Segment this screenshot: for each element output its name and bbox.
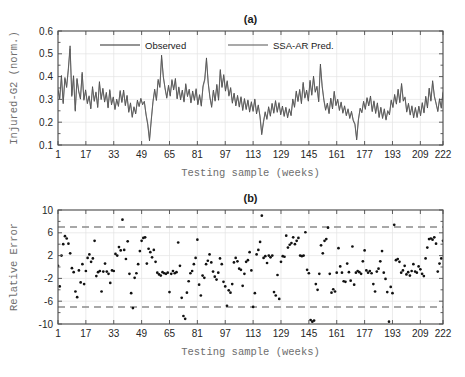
scatter-point (285, 234, 288, 237)
xtick-label: 129 (273, 328, 290, 339)
scatter-point (259, 241, 262, 244)
scatter-point (224, 285, 227, 288)
xtick-label: 81 (192, 149, 204, 160)
scatter-point (193, 263, 196, 266)
xtick-label: 1 (55, 149, 61, 160)
scatter-point (295, 239, 298, 242)
scatter-point (191, 270, 194, 273)
scatter-point (140, 239, 143, 242)
scatter-point (226, 304, 229, 307)
scatter-point (220, 263, 223, 266)
scatter-point (321, 252, 324, 255)
scatter-point (180, 296, 183, 299)
scatter-point (339, 265, 342, 268)
scatter-point (78, 269, 81, 272)
scatter-point (337, 247, 340, 250)
xtick-label: 222 (435, 149, 452, 160)
scatter-point (118, 246, 121, 249)
xtick-label: 97 (220, 149, 232, 160)
xtick-label: 17 (80, 149, 92, 160)
scatter-point (389, 286, 392, 289)
scatter-point (421, 272, 424, 275)
scatter-point (236, 260, 239, 263)
scatter-point (208, 253, 211, 256)
scatter-point (250, 269, 253, 272)
scatter-point (201, 274, 204, 277)
scatter-point (146, 262, 149, 265)
scatter-point (266, 262, 269, 265)
scatter-point (151, 256, 154, 259)
panel-a: (a)0.10.20.30.40.50.61173349658197113129… (0, 0, 465, 188)
scatter-point (210, 261, 213, 264)
scatter-point (170, 272, 173, 275)
panel-b: (b)-10-6-2261011733496581971131291451611… (0, 188, 465, 376)
scatter-point (184, 318, 187, 321)
ytick-label: 2 (47, 250, 53, 261)
scatter-point (227, 289, 230, 292)
scatter-point (128, 272, 131, 275)
scatter-point (243, 272, 246, 275)
scatter-point (147, 247, 150, 250)
scatter-point (274, 294, 277, 297)
scatter-point (217, 271, 220, 274)
scatter-point (302, 254, 305, 257)
scatter-point (121, 218, 124, 221)
scatter-point (247, 259, 250, 262)
scatter-point (353, 283, 356, 286)
scatter-point (377, 267, 380, 270)
ytick-label: 0.2 (39, 117, 53, 128)
scatter-point (416, 271, 419, 274)
scatter-point (64, 235, 67, 238)
scatter-point (273, 291, 276, 294)
scatter-point (360, 272, 363, 275)
scatter-point (123, 249, 126, 252)
scatter-point (438, 262, 441, 265)
scatter-point (381, 250, 384, 253)
scatter-point (297, 237, 300, 240)
xtick-label: 209 (412, 149, 429, 160)
ytick-label: 0.5 (39, 48, 53, 59)
scatter-point (368, 270, 371, 273)
scatter-point (318, 272, 321, 275)
scatter-point (264, 255, 267, 258)
xtick-label: 145 (301, 149, 318, 160)
scatter-point (74, 290, 77, 293)
series-line-observed (58, 46, 443, 141)
ytick-label: -10 (39, 319, 54, 330)
scatter-point (179, 265, 182, 268)
xtick-label: 177 (356, 149, 373, 160)
xtick-label: 222 (435, 328, 452, 339)
scatter-point (81, 263, 84, 266)
scatter-point (313, 319, 316, 322)
scatter-point (231, 283, 234, 286)
ytick-label: 10 (42, 205, 54, 216)
scatter-point (116, 254, 119, 257)
scatter-point (365, 269, 368, 272)
scatter-point (362, 260, 365, 263)
scatter-point (260, 214, 263, 217)
scatter-point (98, 270, 101, 273)
xtick-label: 161 (328, 328, 345, 339)
scatter-point (330, 291, 333, 294)
scatter-point (412, 263, 415, 266)
legend-a: ObservedSSA-AR Pred. (100, 40, 334, 51)
scatter-point (388, 320, 391, 323)
scatter-point (132, 307, 135, 310)
scatter-point (130, 292, 133, 295)
scatter-point (67, 242, 70, 245)
scatter-point (149, 251, 152, 254)
scatter-point (314, 283, 317, 286)
scatter-point (126, 240, 129, 243)
scatter-point (398, 261, 401, 264)
series-group (58, 46, 443, 141)
scatter-point (334, 290, 337, 293)
scatter-point (177, 241, 180, 244)
scatter-point (276, 274, 279, 277)
ytick-label: 6 (47, 227, 53, 238)
scatter-point (175, 271, 178, 274)
scatter-point (372, 283, 375, 286)
scatter-point (426, 246, 429, 249)
scatter-point (391, 292, 394, 295)
scatter-point (229, 291, 232, 294)
scatter-point (344, 280, 347, 283)
